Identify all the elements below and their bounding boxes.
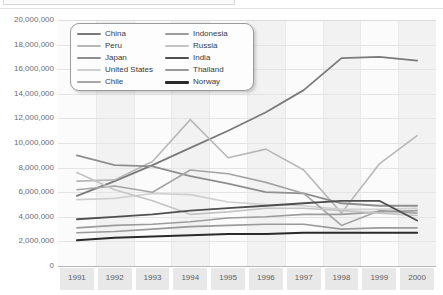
x-axis: 1991199219931994199519961997199819992000 <box>58 268 436 290</box>
legend-label: Japan <box>105 52 127 64</box>
legend-color-swatch <box>77 69 101 71</box>
x-axis-tick-label: 1994 <box>171 273 209 283</box>
legend-item[interactable]: Chile <box>77 76 165 88</box>
x-axis-tick-label: 1992 <box>96 273 134 283</box>
y-axis: 20,000,00018,000,00016,000,00014,000,000… <box>0 0 58 295</box>
x-axis-tick-label: 1995 <box>209 273 247 283</box>
legend-label: India <box>193 52 210 64</box>
y-axis-tick-label: 0 <box>50 262 54 270</box>
y-axis-tick-label: 2,000,000 <box>18 237 54 245</box>
y-axis-tick-label: 20,000,000 <box>14 16 54 24</box>
y-axis-tick-label: 16,000,000 <box>14 65 54 73</box>
legend-color-swatch <box>77 57 101 59</box>
x-axis-tick-label: 2000 <box>398 273 436 283</box>
x-axis-tick-label: 1997 <box>285 273 323 283</box>
plot-top-border <box>58 20 436 21</box>
legend-item[interactable]: Thailand <box>165 64 253 76</box>
y-axis-tick-label: 8,000,000 <box>18 164 54 172</box>
legend-color-swatch <box>77 45 101 47</box>
x-axis-tick-label: 1991 <box>58 273 96 283</box>
legend-color-swatch <box>77 33 101 35</box>
legend-item[interactable]: Japan <box>77 52 165 64</box>
top-cutoff-strip <box>0 0 443 10</box>
legend-color-swatch <box>165 33 189 35</box>
legend-item[interactable]: Norway <box>165 76 253 88</box>
legend-label: United States <box>105 64 153 76</box>
legend-color-swatch <box>165 69 189 71</box>
y-axis-tick-label: 18,000,000 <box>14 41 54 49</box>
legend-label: Chile <box>105 76 123 88</box>
y-axis-tick-label: 10,000,000 <box>14 139 54 147</box>
y-axis-tick-label: 6,000,000 <box>18 188 54 196</box>
legend-label: Indonesia <box>193 28 228 40</box>
legend-label: Norway <box>193 76 220 88</box>
legend-label: Peru <box>105 40 122 52</box>
legend-item[interactable]: Peru <box>77 40 165 52</box>
legend-item[interactable]: Indonesia <box>165 28 253 40</box>
plot-bottom-border <box>58 266 436 267</box>
legend-item[interactable]: India <box>165 52 253 64</box>
horizontal-rule <box>0 8 443 9</box>
legend-item[interactable]: China <box>77 28 165 40</box>
legend-color-swatch <box>165 57 189 59</box>
y-axis-tick-label: 14,000,000 <box>14 90 54 98</box>
legend-item[interactable]: Russia <box>165 40 253 52</box>
legend-label: Thailand <box>193 64 224 76</box>
series-line-norway <box>77 233 417 240</box>
legend-color-swatch <box>77 81 101 83</box>
chart-screenshot: 20,000,00018,000,00016,000,00014,000,000… <box>0 0 443 295</box>
y-axis-tick-label: 4,000,000 <box>18 213 54 221</box>
chart-legend: ChinaPeruJapanUnited StatesChile Indones… <box>70 23 254 91</box>
x-axis-tick-label: 1999 <box>360 273 398 283</box>
legend-column-right: IndonesiaRussiaIndiaThailandNorway <box>165 28 253 88</box>
x-axis-tick-label: 1993 <box>134 273 172 283</box>
x-axis-tick-label: 1996 <box>247 273 285 283</box>
legend-item[interactable]: United States <box>77 64 165 76</box>
legend-color-swatch <box>165 45 189 47</box>
legend-color-swatch <box>165 81 189 84</box>
legend-column-left: ChinaPeruJapanUnited StatesChile <box>77 28 165 88</box>
legend-label: Russia <box>193 40 217 52</box>
legend-label: China <box>105 28 126 40</box>
y-axis-tick-label: 12,000,000 <box>14 114 54 122</box>
x-axis-tick-label: 1998 <box>323 273 361 283</box>
